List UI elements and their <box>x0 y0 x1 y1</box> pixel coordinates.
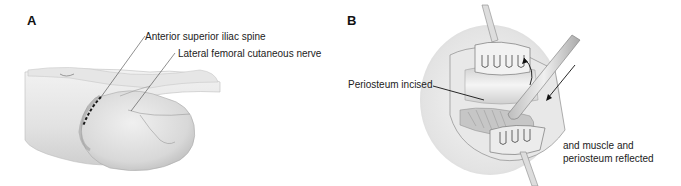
label-lateral-femoral-cutaneous-nerve: Lateral femoral cutaneous nerve <box>178 48 321 60</box>
label-muscle-reflected-line1: and muscle and <box>563 140 634 152</box>
label-muscle-reflected-line2: periosteum reflected <box>563 153 654 165</box>
panel-a: A Anteri <box>0 0 340 186</box>
label-periosteum-incised: Periosteum incised <box>348 79 432 91</box>
panel-b: B <box>340 0 681 186</box>
hip-anterior-illustration <box>0 0 340 186</box>
label-anterior-superior-iliac-spine: Anterior superior iliac spine <box>145 31 266 43</box>
